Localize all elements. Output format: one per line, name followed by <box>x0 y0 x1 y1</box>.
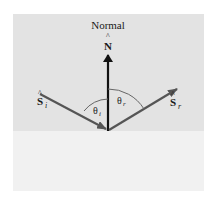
svg-text:θ: θ <box>93 105 98 116</box>
svg-text:^: ^ <box>38 89 42 98</box>
svg-text:r: r <box>178 102 182 111</box>
theta-r-label: θ r <box>117 95 126 108</box>
reflection-diagram: Normal N ^ S ^ i S ^ r θ i θ r <box>0 0 217 202</box>
svg-text:^: ^ <box>106 32 110 41</box>
svg-text:N: N <box>104 40 112 52</box>
normal-label: Normal <box>91 19 125 31</box>
svg-text:θ: θ <box>117 95 122 106</box>
theta-r-arc <box>108 89 144 109</box>
theta-i-label: θ i <box>93 105 101 118</box>
svg-text:^: ^ <box>171 90 175 99</box>
normal-vector-label: N ^ <box>104 32 112 52</box>
svg-text:i: i <box>99 110 101 118</box>
svg-text:r: r <box>123 100 126 108</box>
incident-vector-label: S ^ i <box>37 89 47 110</box>
reflected-vector-label: S ^ r <box>170 90 182 111</box>
svg-text:i: i <box>45 101 47 110</box>
